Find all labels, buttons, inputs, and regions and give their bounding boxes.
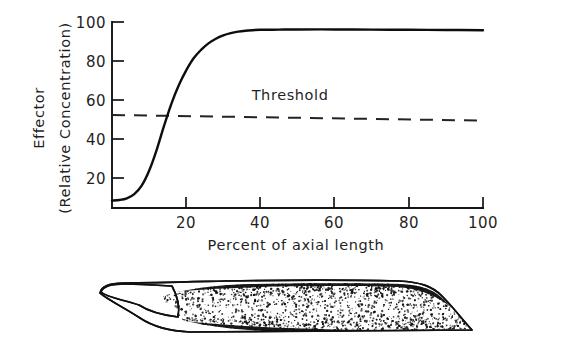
threshold-label: Threshold <box>251 87 329 103</box>
effector-concentration-curve <box>112 29 483 200</box>
y-tick-label-60: 60 <box>86 92 106 110</box>
y-tick-label-100: 100 <box>76 14 106 32</box>
organism-schematic <box>100 280 475 335</box>
y-tick-label-40: 40 <box>86 131 106 149</box>
figure-svg: Effector (Relative Concentration) 100 80… <box>0 0 573 357</box>
figure-root: Effector (Relative Concentration) 100 80… <box>0 0 573 357</box>
x-axis-ticks <box>186 197 483 208</box>
x-tick-label-80: 80 <box>399 214 419 232</box>
y-axis-title-line1: Effector <box>31 87 47 149</box>
x-tick-label-20: 20 <box>176 214 196 232</box>
y-tick-label-80: 80 <box>86 53 106 71</box>
x-tick-label-40: 40 <box>250 214 270 232</box>
y-axis-tick-labels: 100 80 60 40 20 <box>76 14 106 188</box>
y-tick-label-20: 20 <box>86 170 106 188</box>
x-tick-label-100: 100 <box>468 214 498 232</box>
x-axis-title: Percent of axial length <box>208 237 385 253</box>
y-axis-ticks <box>112 22 124 178</box>
x-tick-label-60: 60 <box>324 214 344 232</box>
y-axis-title-line2: (Relative Concentration) <box>57 22 73 213</box>
x-axis-tick-labels: 20 40 60 80 100 <box>176 214 498 232</box>
